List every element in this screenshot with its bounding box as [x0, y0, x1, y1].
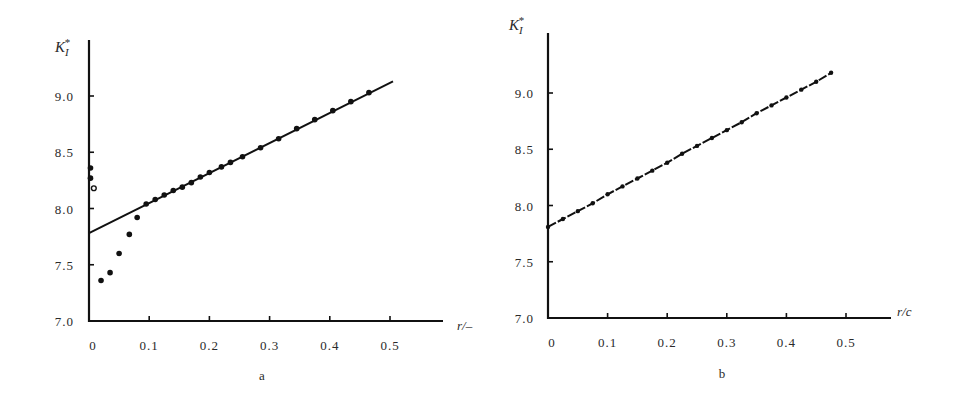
data-point — [198, 174, 204, 180]
data-point — [695, 144, 699, 148]
data-point — [710, 136, 714, 140]
data-point — [546, 225, 550, 229]
x-axis-label: r/– — [457, 318, 473, 333]
x-tick-label: 0.3 — [260, 338, 279, 353]
x-tick-label: 0.5 — [380, 338, 399, 353]
data-point — [312, 117, 318, 123]
data-point — [769, 103, 773, 107]
data-point — [294, 126, 300, 132]
y-tick-label: 8.0 — [515, 199, 534, 214]
figure: 00.10.20.30.40.57.07.58.08.59.0KI*r/–a 0… — [0, 0, 961, 399]
data-point — [88, 165, 94, 171]
data-point — [605, 192, 609, 196]
data-point — [366, 90, 372, 96]
y-tick-label: 7.5 — [55, 258, 74, 273]
y-axis-label-sup: * — [519, 14, 525, 26]
data-point — [330, 108, 336, 114]
y-axis-label: KI* — [508, 14, 524, 36]
data-point — [665, 161, 669, 165]
data-point — [240, 154, 246, 160]
x-tick-label: 0.4 — [320, 338, 339, 353]
data-point — [170, 188, 176, 194]
y-tick-label: 9.0 — [55, 89, 74, 104]
axes — [548, 33, 891, 318]
data-point — [219, 164, 225, 170]
data-point — [591, 201, 595, 205]
data-point — [143, 201, 149, 207]
x-tick-label: 0.4 — [777, 335, 796, 350]
data-point — [127, 232, 133, 238]
data-point — [258, 145, 264, 151]
data-point — [576, 209, 580, 213]
data-point — [754, 111, 758, 115]
x-tick-label: 0.2 — [658, 335, 677, 350]
y-tick-label: 9.0 — [515, 86, 534, 101]
panel-caption: b — [719, 366, 726, 381]
x-tick-label: 0.3 — [717, 335, 736, 350]
data-point — [561, 217, 565, 221]
panel-caption: a — [259, 368, 265, 383]
panel-b: 00.10.20.30.40.57.07.58.08.59.0KI*r/cb — [508, 14, 912, 381]
data-point — [107, 270, 113, 276]
data-point — [276, 136, 282, 142]
data-point — [725, 128, 729, 132]
x-tick-label: 0.1 — [140, 338, 159, 353]
data-point — [98, 278, 104, 284]
data-point — [207, 170, 213, 176]
x-tick-label: 0.2 — [200, 338, 219, 353]
data-point — [189, 180, 195, 186]
data-point — [799, 87, 803, 91]
y-axis-label: KI* — [54, 36, 70, 58]
data-point — [152, 197, 158, 203]
data-point — [740, 120, 744, 124]
data-point — [635, 176, 639, 180]
data-point — [228, 160, 234, 166]
y-tick-label: 8.5 — [515, 142, 534, 157]
y-tick-label: 7.0 — [515, 311, 534, 326]
data-point — [650, 168, 654, 172]
y-axis-label-sup: * — [65, 36, 71, 48]
x-tick-label: 0.1 — [598, 335, 617, 350]
data-point — [161, 192, 167, 198]
data-point — [348, 99, 354, 105]
data-point — [814, 80, 818, 84]
data-point — [116, 251, 122, 257]
data-point — [784, 95, 788, 99]
data-point — [134, 215, 140, 221]
y-tick-label: 8.5 — [55, 145, 74, 160]
y-tick-label: 7.5 — [515, 255, 534, 270]
data-point — [180, 184, 186, 190]
y-tick-label: 8.0 — [55, 202, 74, 217]
panel-a: 00.10.20.30.40.57.07.58.08.59.0KI*r/–a — [54, 36, 473, 383]
data-point — [88, 175, 94, 181]
fit-line — [548, 73, 831, 227]
x-tick-label: 0 — [89, 338, 97, 353]
x-tick-label: 0.5 — [836, 335, 855, 350]
y-tick-label: 7.0 — [55, 314, 74, 329]
data-point — [91, 186, 96, 191]
data-point — [620, 184, 624, 188]
x-tick-label: 0 — [548, 335, 556, 350]
x-axis-label: r/c — [897, 304, 912, 319]
data-point — [680, 152, 684, 156]
data-point — [829, 71, 833, 75]
